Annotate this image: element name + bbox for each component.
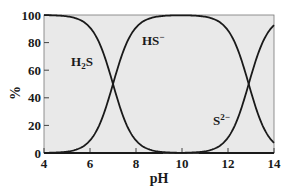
y-tick-label: 40 — [28, 90, 41, 105]
x-tick-label: 10 — [176, 156, 189, 171]
x-tick-label: 8 — [133, 156, 140, 171]
x-tick-label: 4 — [41, 156, 48, 171]
y-tick-label: 20 — [28, 118, 41, 133]
x-tick-label: 14 — [268, 156, 282, 171]
y-tick-label: 60 — [28, 63, 41, 78]
y-axis-title: % — [8, 86, 23, 100]
y-tick-label: 80 — [28, 35, 41, 50]
x-tick-label: 6 — [87, 156, 94, 171]
speciation-chart: 020406080100 468101214 % pH H2S HS− S2− — [0, 0, 288, 191]
x-axis-title: pH — [150, 171, 169, 186]
y-tick-label: 100 — [22, 8, 42, 23]
x-tick-label: 12 — [222, 156, 235, 171]
